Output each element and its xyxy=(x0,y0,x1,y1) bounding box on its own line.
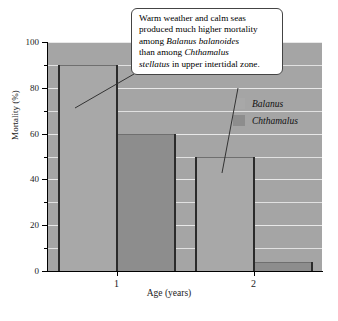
legend-label-chthamalus: Chthamalus xyxy=(252,116,298,126)
bar-chthamalus-age-1 xyxy=(118,134,174,271)
y-tick-label: 60 xyxy=(30,129,39,138)
y-axis-line xyxy=(47,42,48,272)
callout-annotation: Warm weather and calm seas produced much… xyxy=(131,8,283,75)
bar-balanus-age-1 xyxy=(60,65,116,271)
callout-line-4: than among Chthamalus xyxy=(139,47,276,58)
y-axis: 020406080100 xyxy=(0,42,47,272)
figure-bar-chart-mortality: 020406080100 Mortality (%) 12 Age (years… xyxy=(0,0,338,321)
y-axis-title: Mortality (%) xyxy=(10,68,20,162)
legend-item-chthamalus: Chthamalus xyxy=(233,112,325,129)
y-tick-label: 40 xyxy=(30,175,39,184)
callout-line-5: stellatus in upper intertidal zone. xyxy=(139,59,276,70)
callout-line-3: among Balanus balanoides xyxy=(139,36,276,47)
legend-swatch-chthamalus xyxy=(233,115,245,126)
x-tick xyxy=(254,272,255,276)
y-tick-label: 20 xyxy=(30,221,39,230)
bar-balanus-age-2 xyxy=(197,157,253,272)
legend: Balanus Chthamalus xyxy=(233,95,325,129)
x-tick xyxy=(117,272,118,276)
legend-swatch-balanus xyxy=(233,98,245,109)
y-tick-label: 100 xyxy=(26,38,40,47)
plot-area xyxy=(48,42,322,271)
y-tick-label: 80 xyxy=(30,83,39,92)
callout-line-2: produced much higher mortality xyxy=(139,24,276,35)
legend-label-balanus: Balanus xyxy=(252,99,283,109)
callout-line-1: Warm weather and calm seas xyxy=(139,13,276,24)
legend-item-balanus: Balanus xyxy=(233,95,325,112)
x-axis-title: Age (years) xyxy=(0,288,338,298)
bar-chthamalus-age-2 xyxy=(255,262,311,271)
